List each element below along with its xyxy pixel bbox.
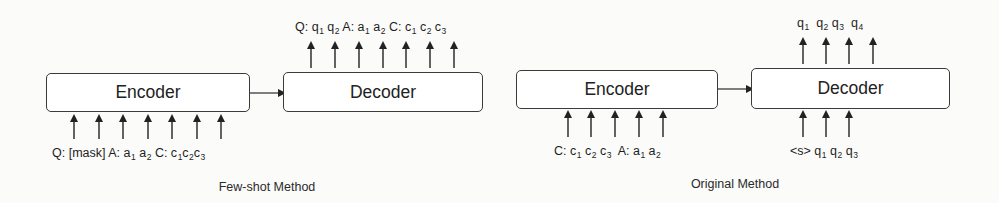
- sequence-token: c3: [431, 20, 446, 34]
- sequence-token: q3: [828, 16, 844, 30]
- sequence-token: C: c1: [385, 20, 416, 34]
- sequence-token: c3: [596, 144, 611, 158]
- sequence-token: q4: [844, 16, 863, 30]
- sequence-token: A: a1: [340, 20, 370, 34]
- original-decoder-box: Decoder: [751, 68, 950, 109]
- sequence-token: c2: [416, 20, 431, 34]
- encoder-label: Encoder: [115, 82, 180, 103]
- sequence-token: Q: [mask]: [52, 146, 105, 160]
- sequence-token: q3: [842, 144, 858, 158]
- sequence-token: c3: [194, 146, 205, 160]
- original-decoder-input-sequence: <s> q1 q2 q3: [790, 144, 858, 160]
- sequence-token: c2: [581, 144, 596, 158]
- decoder-label: Decoder: [350, 82, 416, 103]
- sequence-token: A: a1: [105, 146, 135, 160]
- decoder-label: Decoder: [817, 78, 883, 99]
- sequence-token: q2: [324, 20, 340, 34]
- sequence-token: C: c1: [554, 144, 581, 158]
- sequence-token: A: a1: [611, 144, 645, 158]
- few-shot-decoder-output-arrows: [311, 45, 454, 68]
- few-shot-decoder-output-sequence: Q: q1 q2 A: a1 a2 C: c1 c2 c3: [295, 20, 446, 36]
- original-encoder-input-arrows: [568, 114, 663, 137]
- few-shot-encoder-input-sequence: Q: [mask] A: a1 a2 C: c1c2c3: [52, 146, 205, 162]
- original-caption: Original Method: [691, 177, 779, 191]
- original-decoder-input-arrows: [803, 114, 849, 137]
- sequence-token: q1: [797, 16, 809, 30]
- original-encoder-input-sequence: C: c1 c2 c3 A: a1 a2: [554, 144, 661, 160]
- original-decoder-output-arrows: [803, 41, 873, 64]
- sequence-token: q2: [827, 144, 843, 158]
- sequence-token: q2: [809, 16, 828, 30]
- original-decoder-output-sequence: q1 q2 q3 q4: [797, 16, 863, 32]
- few-shot-encoder-input-arrows: [74, 118, 221, 139]
- encoder-label: Encoder: [584, 79, 649, 100]
- sequence-token: a2: [645, 144, 661, 158]
- sequence-token: a2: [136, 146, 152, 160]
- sequence-token: Q: q1: [295, 20, 324, 34]
- sequence-token: a2: [370, 20, 386, 34]
- original-encoder-box: Encoder: [516, 70, 718, 109]
- few-shot-caption: Few-shot Method: [219, 180, 316, 194]
- sequence-token: <s> q1: [790, 144, 827, 158]
- few-shot-decoder-box: Decoder: [283, 72, 483, 112]
- sequence-token: C: c1: [151, 146, 182, 160]
- few-shot-encoder-box: Encoder: [46, 73, 250, 112]
- sequence-token: c2: [182, 146, 193, 160]
